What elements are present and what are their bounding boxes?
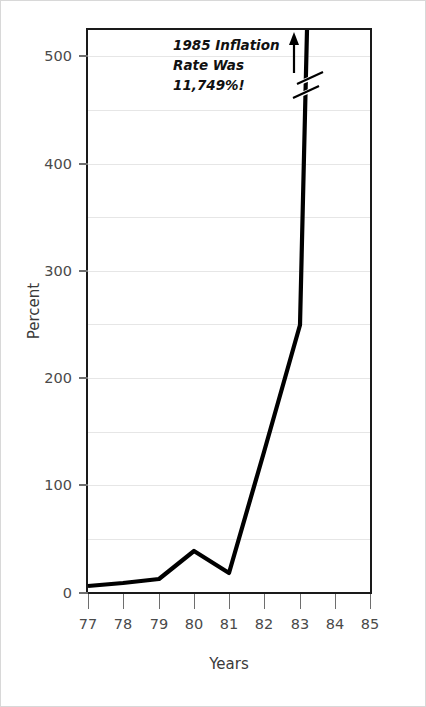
x-axis-title: Years: [208, 655, 249, 673]
x-axis-tick-labels: 77 78 79 80 81 82 83 84 85: [79, 616, 379, 632]
y-axis-title: Percent: [25, 283, 43, 340]
xtick-label-80: 80: [185, 616, 203, 632]
ytick-label-200: 200: [44, 370, 72, 386]
xtick-label-82: 82: [255, 616, 273, 632]
y-axis-tick-labels: 500 400 300 200 100 0: [44, 48, 72, 601]
plot-area-frame: [87, 29, 371, 593]
ytick-label-0: 0: [63, 585, 72, 601]
annotation-line-1: 1985 Inflation: [173, 37, 280, 53]
inflation-line-chart: 500 400 300 200 100 0 77: [1, 1, 425, 706]
chart-figure: 500 400 300 200 100 0 77: [1, 1, 425, 706]
xtick-label-77: 77: [79, 616, 97, 632]
ytick-label-100: 100: [44, 477, 72, 493]
ytick-label-500: 500: [44, 48, 72, 64]
ytick-label-300: 300: [44, 263, 72, 279]
xtick-label-83: 83: [291, 616, 309, 632]
xtick-label-79: 79: [150, 616, 168, 632]
xtick-label-81: 81: [220, 616, 238, 632]
annotation-line-2: Rate Was: [173, 57, 244, 73]
xtick-label-85: 85: [361, 616, 379, 632]
x-axis-ticks: [88, 594, 370, 609]
xtick-label-78: 78: [114, 616, 132, 632]
page-canvas: 500 400 300 200 100 0 77: [0, 0, 426, 707]
ytick-label-400: 400: [44, 156, 72, 172]
annotation-line-3: 11,749%!: [173, 77, 245, 93]
xtick-label-84: 84: [326, 616, 344, 632]
